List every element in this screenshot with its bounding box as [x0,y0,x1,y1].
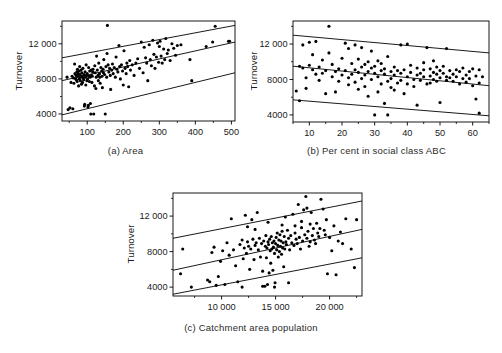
x-tick-label: 10 000 [208,302,236,312]
y-tick-label: 8000 [36,74,56,84]
x-tick-label: 40 [402,128,412,138]
y-tick-label: 4000 [147,282,167,292]
y-tick-label: 8000 [267,75,287,85]
scatter-plot-area: 4000800012 000100200300400500Turnover [0,0,251,145]
panel-b-caption: (b) Per cent in social class ABC [251,145,502,156]
y-tick-label: 12 000 [259,39,287,49]
x-tick-label: 100 [80,127,95,137]
x-tick-label: 500 [224,127,239,137]
x-tick-label: 300 [152,127,167,137]
scatter-plot-catchment: 4000800012 00010 00015 00020 000Turnover [120,178,382,322]
x-tick-label: 15 000 [262,302,290,312]
panel-a-caption: (a) Area [0,145,251,156]
y-tick-label: 4000 [36,109,56,119]
x-tick-label: 200 [116,127,131,137]
x-tick-label: 30 [370,128,380,138]
y-tick-label: 8000 [147,247,167,257]
x-tick-label: 400 [188,127,203,137]
y-tick-label: 12 000 [28,39,56,49]
y-axis-title: Turnover [13,51,24,91]
x-tick-label: 20 000 [316,302,344,312]
y-axis-title: Turnover [251,51,259,91]
x-tick-label: 60 [468,128,478,138]
y-axis-title: Turnover [125,224,136,264]
x-tick-label: 20 [337,128,347,138]
y-tick-label: 12 000 [139,211,167,221]
y-tick-label: 4000 [267,110,287,120]
panel-c-caption: (c) Catchment area population [120,322,382,333]
x-tick-label: 50 [435,128,445,138]
x-tick-label: 10 [304,128,314,138]
scatter-plot-social-class: 4000800012 000102030405060Turnover [251,0,502,145]
